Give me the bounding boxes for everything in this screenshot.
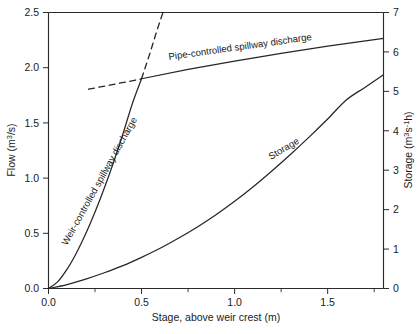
right-tick-label-3: 3: [393, 164, 399, 176]
right-tick-label-7: 7: [393, 6, 399, 18]
right-tick-label-5: 5: [393, 85, 399, 97]
right-tick-label-1: 1: [393, 243, 399, 255]
bottom-tick-label-3: 1.5: [320, 296, 335, 308]
bottom-tick-label-0: 0.0: [41, 296, 56, 308]
pipe-relation-dashed-extension: [89, 79, 142, 89]
axis-titles: Flow (m3/s) Storage (m3s-1h) Stage, abov…: [5, 111, 415, 323]
y-axis-left-title: Flow (m3/s): [5, 123, 18, 176]
left-tick-label-2: 1.0: [24, 172, 39, 184]
weir-relation-dashed-extension: [142, 13, 163, 79]
right-tick-label-0: 0: [393, 282, 399, 294]
right-tick-label-4: 4: [393, 125, 399, 137]
right-tick-label-2: 2: [393, 203, 399, 215]
weir-curve-label: Weir-controlled spillway discharge: [59, 115, 139, 247]
pipe-curve-label: Pipe-controlled spillway discharge: [168, 31, 313, 62]
bottom-tick-label-1: 0.5: [134, 296, 149, 308]
left-tick-label-4: 2.0: [24, 61, 39, 73]
left-axis-ticks: 0.0 0.5 1.0 1.5 2.0 2.5: [24, 6, 48, 294]
curve-labels-group: Weir-controlled spillway discharge Pipe-…: [59, 31, 312, 247]
y-axis-right-title: Storage (m3s-1h): [402, 111, 415, 188]
x-axis-title: Stage, above weir crest (m): [152, 311, 280, 323]
storage-curve-label: Storage: [266, 135, 300, 162]
left-tick-label-5: 2.5: [24, 6, 39, 18]
bottom-axis-ticks: 0.0 0.5 1.0 1.5: [41, 289, 374, 308]
stage-discharge-storage-chart: 0.0 0.5 1.0 1.5 2.0 2.5 0 1 2 3 4 5 6 7: [0, 0, 419, 334]
figure-root: 0.0 0.5 1.0 1.5 2.0 2.5 0 1 2 3 4 5 6 7: [0, 0, 419, 334]
left-tick-label-3: 1.5: [24, 117, 39, 129]
right-tick-label-6: 6: [393, 46, 399, 58]
left-tick-label-0: 0.0: [24, 282, 39, 294]
right-axis-ticks: 0 1 2 3 4 5 6 7: [384, 6, 400, 294]
left-tick-label-1: 0.5: [24, 227, 39, 239]
bottom-tick-label-2: 1.0: [227, 296, 242, 308]
